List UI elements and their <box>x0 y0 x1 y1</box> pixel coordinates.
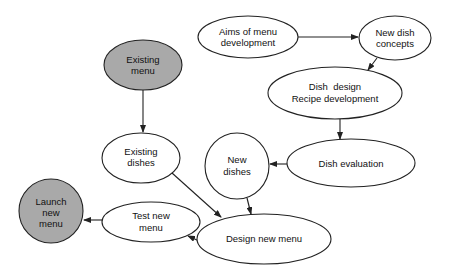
svg-text:Launch: Launch <box>35 196 66 207</box>
node-new-dishes: New dishes <box>205 133 269 199</box>
diagram-svg: Existing menu Aims of menu development N… <box>0 0 450 277</box>
svg-text:Recipe development: Recipe development <box>292 93 379 104</box>
svg-text:Aims of menu: Aims of menu <box>219 26 277 37</box>
node-aims-of-menu-development: Aims of menu development <box>198 16 298 58</box>
svg-text:New dish: New dish <box>375 27 414 38</box>
svg-text:menu: menu <box>39 218 63 229</box>
svg-text:Existing: Existing <box>126 54 159 65</box>
svg-text:menu: menu <box>139 222 163 233</box>
svg-text:Dish evaluation: Dish evaluation <box>319 158 384 169</box>
svg-text:dishes: dishes <box>127 157 155 168</box>
node-launch-new-menu: Launch new menu <box>19 179 83 243</box>
node-new-dish-concepts: New dish concepts <box>359 16 431 60</box>
node-existing-dishes: Existing dishes <box>102 133 180 183</box>
node-design-new-menu: Design new menu <box>197 214 331 264</box>
svg-text:development: development <box>221 37 276 48</box>
node-dish-evaluation: Dish evaluation <box>287 139 415 187</box>
svg-text:Test new: Test new <box>132 210 170 221</box>
svg-text:menu: menu <box>131 65 155 76</box>
flow-diagram: Existing menu Aims of menu development N… <box>0 0 450 277</box>
svg-text:New: New <box>227 154 246 165</box>
svg-text:Existing: Existing <box>124 146 157 157</box>
node-existing-menu: Existing menu <box>104 40 182 90</box>
nodes: Existing menu Aims of menu development N… <box>19 16 431 264</box>
svg-text:concepts: concepts <box>376 38 414 49</box>
edge-new-dishes-to-design-menu <box>247 198 251 214</box>
svg-text:new: new <box>42 207 60 218</box>
svg-text:Design new menu: Design new menu <box>226 233 302 244</box>
svg-text:Dish design: Dish design <box>309 81 361 92</box>
svg-text:dishes: dishes <box>223 166 251 177</box>
node-dish-design: Dish design Recipe development <box>268 67 402 119</box>
node-test-new-menu: Test new menu <box>102 202 200 242</box>
edge-new-concepts-to-dish-design <box>368 58 377 70</box>
